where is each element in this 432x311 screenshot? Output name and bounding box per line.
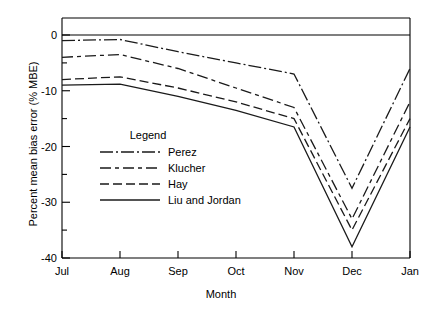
- legend-label-klucher: Klucher: [168, 162, 206, 174]
- x-axis-ticks: [62, 251, 410, 258]
- x-tick-label-sep: Sep: [168, 265, 188, 277]
- y-axis-tick-labels: 0 -10 -20 -30 -40: [41, 29, 57, 264]
- series-line-hay: [62, 77, 410, 230]
- legend-label-hay: Hay: [168, 178, 188, 190]
- legend-label-liu-and-jordan: Liu and Jordan: [168, 194, 241, 206]
- y-axis-major-ticks: [62, 35, 70, 258]
- plot-frame: [62, 18, 410, 258]
- chart-figure: Percent mean bias error (% MBE) Month: [0, 0, 432, 311]
- x-tick-label-nov: Nov: [284, 265, 304, 277]
- legend-items: PerezKlucherHayLiu and Jordan: [100, 146, 241, 206]
- x-tick-label-jan: Jan: [401, 265, 419, 277]
- x-axis-title: Month: [176, 288, 266, 300]
- x-tick-label-dec: Dec: [342, 265, 362, 277]
- chart-plot-area: 0 -10 -20 -30 -40 Jul Aug Sep Oct Nov De…: [0, 0, 432, 311]
- y-tick-label-0: 0: [51, 29, 57, 41]
- y-axis-title: Percent mean bias error (% MBE): [27, 49, 39, 239]
- x-tick-label-oct: Oct: [227, 265, 244, 277]
- y-tick-label--20: -20: [41, 141, 57, 153]
- legend-label-perez: Perez: [168, 146, 197, 158]
- y-tick-label--30: -30: [41, 196, 57, 208]
- x-axis-tick-labels: Jul Aug Sep Oct Nov Dec Jan: [55, 265, 419, 277]
- chart-legend: Legend PerezKlucherHayLiu and Jordan: [100, 129, 241, 206]
- series-line-perez: [62, 40, 410, 189]
- y-tick-label--10: -10: [41, 85, 57, 97]
- data-series-group: [62, 40, 410, 247]
- y-tick-label--40: -40: [41, 252, 57, 264]
- legend-title: Legend: [130, 129, 167, 141]
- series-line-liu-and-jordan: [62, 84, 410, 247]
- x-tick-label-jul: Jul: [55, 265, 69, 277]
- x-tick-label-aug: Aug: [110, 265, 130, 277]
